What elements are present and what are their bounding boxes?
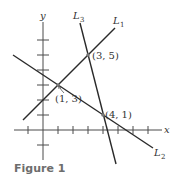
svg-text:1: 1 — [120, 21, 124, 29]
line-l2 — [13, 55, 153, 148]
svg-text:L: L — [112, 15, 120, 26]
lines — [13, 23, 153, 164]
point-label-3-5: (3, 5) — [92, 50, 119, 61]
figure-diagram: y x L 1 L 2 L 3 (1, 3) (3, 5) (4, 1) — [0, 0, 175, 180]
svg-text:L: L — [72, 10, 80, 21]
x-axis-label: x — [164, 124, 170, 135]
line-label-l2: L 2 — [153, 147, 165, 161]
y-axis-label: y — [39, 10, 46, 21]
svg-text:3: 3 — [80, 16, 84, 24]
point-3-5 — [86, 53, 90, 57]
line-label-l1: L 1 — [112, 15, 124, 29]
figure-caption: Figure 1 — [14, 162, 65, 175]
point-label-1-3: (1, 3) — [55, 93, 82, 104]
line-label-l3: L 3 — [72, 10, 84, 24]
point-label-4-1: (4, 1) — [105, 109, 132, 120]
svg-text:L: L — [153, 147, 161, 158]
svg-text:2: 2 — [161, 153, 165, 161]
